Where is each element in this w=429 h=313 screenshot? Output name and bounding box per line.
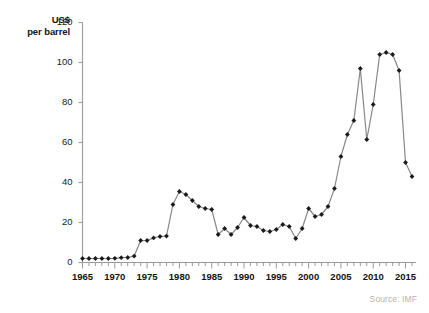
y-tick-label: 60 — [47, 137, 73, 147]
data-point-marker: 2004: 37 — [332, 186, 337, 191]
y-axis-ticks — [79, 23, 83, 263]
data-point-marker: 1978: 13.2 — [164, 234, 169, 239]
data-point-marker: 1968: 2 — [99, 256, 104, 261]
data-point-marker: 1970: 2.1 — [112, 256, 117, 261]
oil-price-chart: US$ per barrel 1965: 21966: 21967: 21968… — [0, 0, 429, 313]
source-note: Source: IMF — [370, 294, 417, 304]
y-tick-label: 100 — [47, 57, 73, 67]
data-point-marker: 1969: 2 — [106, 256, 111, 261]
data-point-marker: 2009: 61.5 — [364, 137, 369, 142]
data-point-marker: 1984: 27 — [203, 206, 208, 211]
data-point-marker: 1994: 15.5 — [267, 229, 272, 234]
data-point-marker: 1972: 2.5 — [125, 255, 130, 260]
data-point-marker: 1975: 11 — [145, 238, 150, 243]
data-point-marker: 2007: 71 — [351, 118, 356, 123]
data-point-marker: 1985: 26.5 — [209, 207, 214, 212]
x-tick-label: 1970 — [98, 271, 132, 282]
y-tick-label: 120 — [47, 17, 73, 27]
x-tick-label: 2015 — [389, 271, 423, 282]
data-point-marker: 1973: 3.2 — [132, 254, 137, 259]
data-point-marker: 1974: 11 — [138, 238, 143, 243]
x-tick-label: 1985 — [195, 271, 229, 282]
data-point-marker: 1971: 2.4 — [119, 255, 124, 260]
data-point-marker: 2006: 64 — [345, 132, 350, 137]
data-point-marker: 2015: 50 — [403, 160, 408, 165]
x-tick-label: 2010 — [356, 271, 390, 282]
data-point-marker: 1979: 29 — [171, 202, 176, 207]
data-point-marker: 2012: 105 — [384, 50, 389, 55]
data-point-marker: 1976: 12.3 — [151, 236, 156, 241]
data-point-marker: 1965: 2 — [80, 256, 85, 261]
y-axis-title-line2: per barrel — [27, 26, 70, 37]
data-point-marker: 1980: 35.5 — [177, 189, 182, 194]
data-point-marker: 2014: 96 — [397, 68, 402, 73]
data-point-marker: 2005: 53 — [339, 154, 344, 159]
x-axis-ticks — [83, 263, 413, 269]
data-point-marker: 1977: 13 — [158, 234, 163, 239]
data-point-marker: 1997: 18 — [287, 224, 292, 229]
x-tick-label: 1995 — [259, 271, 293, 282]
data-point-marker: 2010: 79 — [371, 102, 376, 107]
data-point-marker: 2011: 104 — [377, 52, 382, 57]
x-tick-label: 1965 — [66, 271, 100, 282]
price-series-markers: 1965: 21966: 21967: 21968: 21969: 21970:… — [80, 50, 414, 261]
x-tick-label: 1980 — [162, 271, 196, 282]
data-point-marker: 2008: 97 — [358, 66, 363, 71]
y-tick-label: 20 — [47, 217, 73, 227]
data-point-marker: 2013: 104 — [390, 52, 395, 57]
y-tick-label: 0 — [47, 257, 73, 267]
price-series-line — [83, 53, 413, 259]
x-tick-label: 2005 — [324, 271, 358, 282]
y-tick-label: 40 — [47, 177, 73, 187]
x-tick-label: 1975 — [130, 271, 164, 282]
x-tick-label: 1990 — [227, 271, 261, 282]
x-tick-label: 2000 — [292, 271, 326, 282]
data-point-marker: 1966: 2 — [87, 256, 92, 261]
data-point-marker: 2016: 43 — [410, 174, 415, 179]
y-tick-label: 80 — [47, 97, 73, 107]
data-point-marker: 1967: 2 — [93, 256, 98, 261]
